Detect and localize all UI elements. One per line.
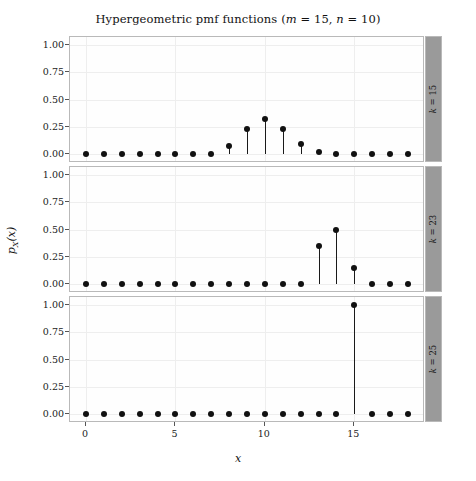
data-point xyxy=(190,151,196,157)
data-point xyxy=(101,281,107,287)
data-point xyxy=(155,411,161,417)
data-point xyxy=(262,411,268,417)
data-point xyxy=(280,281,286,287)
title-m-symbol: m xyxy=(286,12,297,26)
chart-title: Hypergeometric pmf functions (m = 15, n … xyxy=(0,12,476,26)
data-point xyxy=(316,411,322,417)
data-point xyxy=(387,281,393,287)
data-point xyxy=(262,281,268,287)
data-point xyxy=(83,151,89,157)
y-tick-mark xyxy=(65,304,69,305)
data-point xyxy=(262,116,268,122)
x-tick-mark xyxy=(353,422,354,426)
strip-k-value: = 25 xyxy=(429,345,439,368)
x-tick-label: 0 xyxy=(82,428,88,439)
x-tick-label: 15 xyxy=(347,428,359,439)
y-tick-mark xyxy=(65,283,69,284)
data-point xyxy=(119,411,125,417)
data-point xyxy=(298,411,304,417)
stem-line xyxy=(283,129,284,155)
facet-strip-23: k = 23 xyxy=(425,166,442,292)
facet-panel-25: 0.000.250.500.751.00051015k = 25 xyxy=(69,296,424,422)
data-point xyxy=(405,281,411,287)
data-point xyxy=(137,151,143,157)
y-tick-label: 0.25 xyxy=(43,250,64,261)
data-point xyxy=(244,281,250,287)
plot-area xyxy=(69,36,424,162)
data-point xyxy=(172,151,178,157)
stem-line xyxy=(354,305,355,415)
data-point xyxy=(298,281,304,287)
data-point xyxy=(226,143,232,149)
x-tick-mark xyxy=(264,422,265,426)
data-point xyxy=(172,281,178,287)
data-point xyxy=(155,151,161,157)
data-point xyxy=(226,411,232,417)
x-tick-mark xyxy=(174,422,175,426)
data-point xyxy=(333,227,339,233)
y-tick-label: 0.75 xyxy=(43,196,64,207)
gridline-horizontal xyxy=(70,360,423,361)
data-point xyxy=(280,411,286,417)
y-tick-mark xyxy=(65,71,69,72)
data-point xyxy=(172,411,178,417)
gridline-horizontal xyxy=(70,387,423,388)
gridline-horizontal xyxy=(70,257,423,258)
y-tick-mark xyxy=(65,44,69,45)
y-tick-mark xyxy=(65,359,69,360)
data-point xyxy=(351,151,357,157)
data-point xyxy=(369,151,375,157)
y-tick-mark xyxy=(65,386,69,387)
data-point xyxy=(298,141,304,147)
strip-k-symbol: k xyxy=(429,368,439,373)
stem-line xyxy=(247,129,248,155)
data-point xyxy=(208,411,214,417)
stem-line xyxy=(319,246,320,284)
y-tick-label: 0.75 xyxy=(43,326,64,337)
stem-line xyxy=(336,230,337,285)
strip-k-value: = 23 xyxy=(429,215,439,238)
gridline-horizontal xyxy=(70,305,423,306)
y-tick-mark xyxy=(65,99,69,100)
x-tick-label: 10 xyxy=(258,428,270,439)
data-point xyxy=(316,243,322,249)
gridline-horizontal xyxy=(70,202,423,203)
data-point xyxy=(316,149,322,155)
y-tick-mark xyxy=(65,153,69,154)
y-tick-mark xyxy=(65,126,69,127)
stem-line xyxy=(265,119,266,154)
data-point xyxy=(387,411,393,417)
facet-strip-25: k = 25 xyxy=(425,296,442,422)
data-point xyxy=(226,281,232,287)
facet-panel-23: 0.000.250.500.751.00k = 23 xyxy=(69,166,424,292)
data-point xyxy=(83,411,89,417)
data-point xyxy=(155,281,161,287)
y-tick-mark xyxy=(65,331,69,332)
data-point xyxy=(190,281,196,287)
plot-area xyxy=(69,296,424,422)
title-n-symbol: n xyxy=(336,12,344,26)
data-point xyxy=(333,151,339,157)
y-tick-mark xyxy=(65,413,69,414)
strip-k-value: = 15 xyxy=(429,85,439,108)
data-point xyxy=(119,281,125,287)
data-point xyxy=(244,126,250,132)
y-tick-label: 1.00 xyxy=(43,298,64,309)
y-tick-label: 0.00 xyxy=(43,278,64,289)
x-axis-label: x xyxy=(0,452,476,465)
y-tick-label: 1.00 xyxy=(43,38,64,49)
y-tick-label: 1.00 xyxy=(43,168,64,179)
facet-panel-15: 0.000.250.500.751.00k = 15 xyxy=(69,36,424,162)
facet-strip-15: k = 15 xyxy=(425,36,442,162)
data-point xyxy=(190,411,196,417)
y-tick-label: 0.50 xyxy=(43,353,64,364)
strip-k-symbol: k xyxy=(429,238,439,243)
data-point xyxy=(244,411,250,417)
strip-k-symbol: k xyxy=(429,108,439,113)
data-point xyxy=(280,126,286,132)
data-point xyxy=(369,281,375,287)
data-point xyxy=(387,151,393,157)
gridline-horizontal xyxy=(70,230,423,231)
data-point xyxy=(101,411,107,417)
data-point xyxy=(333,411,339,417)
